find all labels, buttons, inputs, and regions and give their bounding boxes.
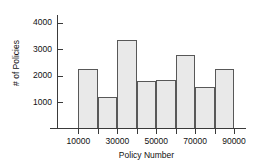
y-axis-tick-label: 2000: [26, 71, 52, 80]
y-axis-tick-label: 3000: [26, 45, 52, 54]
x-axis-tick-mark: [156, 129, 157, 134]
x-axis-title: Policy Number: [59, 150, 234, 160]
x-axis-tick-labels: 1000030000500007000090000: [0, 136, 253, 148]
y-axis-tick-label: 1000: [26, 98, 52, 107]
bar: [176, 55, 195, 129]
y-axis-tick-label: 4000: [26, 18, 52, 27]
bar: [78, 69, 97, 129]
bar: [156, 80, 175, 129]
x-axis-tick-label: 30000: [106, 136, 130, 146]
y-axis-line: [57, 15, 58, 129]
x-axis-tick-mark: [117, 129, 118, 134]
x-axis-tick-mark: [98, 129, 99, 134]
bar: [117, 40, 136, 129]
x-axis-tick-mark: [215, 129, 216, 134]
histogram-chart: # of Policies 1000200030004000 100003000…: [0, 0, 253, 168]
bar: [215, 69, 234, 129]
x-axis-tick-label: 10000: [67, 136, 91, 146]
x-axis-tick-mark: [137, 129, 138, 134]
x-axis-tick-mark: [78, 129, 79, 134]
bar: [195, 87, 214, 129]
plot-area: [59, 15, 234, 129]
bar: [137, 81, 156, 129]
x-axis-tick-label: 70000: [183, 136, 207, 146]
x-axis-tick-label: 90000: [222, 136, 246, 146]
x-axis-tick-mark: [195, 129, 196, 134]
y-axis-title: # of Policies: [9, 0, 23, 128]
x-axis-tick-mark: [234, 129, 235, 134]
x-axis-tick-mark: [176, 129, 177, 134]
x-axis-tick-label: 50000: [144, 136, 168, 146]
bar: [98, 97, 117, 129]
